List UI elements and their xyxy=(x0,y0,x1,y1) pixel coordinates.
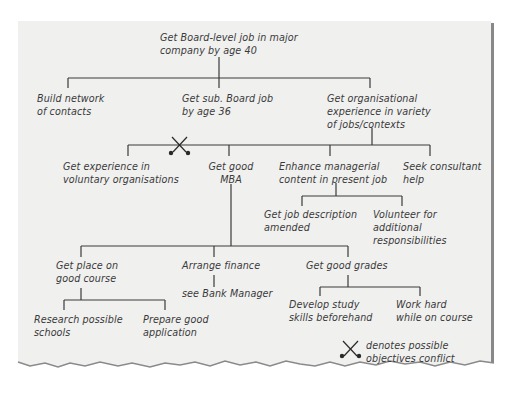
crossed-swords-icon xyxy=(169,137,189,155)
legend-text: denotes possible objectives conflict xyxy=(366,339,455,365)
node-seek-consultant: Seek consultant help xyxy=(403,160,481,186)
node-job-description: Get job description amended xyxy=(264,208,357,234)
node-text: of jobs/contexts xyxy=(327,118,431,131)
node-arrange-finance: Arrange finance xyxy=(182,259,260,272)
node-sub-board-job: Get sub. Board job by age 36 xyxy=(182,92,273,118)
node-text: Work hard xyxy=(396,298,473,311)
node-text: Get good grades xyxy=(306,259,388,272)
node-text: Get sub. Board job xyxy=(182,92,273,105)
node-place-on-course: Get place on good course xyxy=(56,259,118,285)
node-build-network: Build network of contacts xyxy=(37,92,104,118)
node-text: Develop study xyxy=(289,298,373,311)
node-text: Enhance managerial xyxy=(279,160,387,173)
node-text: Prepare good xyxy=(143,313,209,326)
node-bank-manager: see Bank Manager xyxy=(182,287,273,300)
node-text: Get organisational xyxy=(327,92,431,105)
node-text: help xyxy=(403,173,481,186)
node-text: Get Board-level job in major xyxy=(160,31,298,44)
node-text: voluntary organisations xyxy=(63,173,179,186)
node-text: Arrange finance xyxy=(182,259,260,272)
node-good-grades: Get good grades xyxy=(306,259,388,272)
legend-line: objectives conflict xyxy=(366,352,455,365)
node-text: Seek consultant xyxy=(403,160,481,173)
node-text: see Bank Manager xyxy=(182,287,273,300)
node-root: Get Board-level job in major company by … xyxy=(160,31,298,57)
node-text: company by age 40 xyxy=(160,44,298,57)
node-voluntary-experience: Get experience in voluntary organisation… xyxy=(63,160,179,186)
legend-line: denotes possible xyxy=(366,339,455,352)
node-text: Build network xyxy=(37,92,104,105)
node-work-hard: Work hard while on course xyxy=(396,298,473,324)
node-enhance-managerial: Enhance managerial content in present jo… xyxy=(279,160,387,186)
node-text: Get job description xyxy=(264,208,357,221)
node-good-mba: Get good MBA xyxy=(204,160,258,186)
crossed-swords-icon xyxy=(340,341,360,358)
node-text: Research possible xyxy=(34,313,123,326)
node-organisational-experience: Get organisational experience in variety… xyxy=(327,92,431,131)
node-text: of contacts xyxy=(37,105,104,118)
node-text: Get place on xyxy=(56,259,118,272)
node-study-skills: Develop study skills beforehand xyxy=(289,298,373,324)
node-text: responsibilities xyxy=(373,234,447,247)
node-text: Volunteer for xyxy=(373,208,447,221)
node-text: content in present job xyxy=(279,173,387,186)
node-text: good course xyxy=(56,272,118,285)
node-prepare-application: Prepare good application xyxy=(143,313,209,339)
node-research-schools: Research possible schools xyxy=(34,313,123,339)
node-text: amended xyxy=(264,221,357,234)
node-volunteer-responsibilities: Volunteer for additional responsibilitie… xyxy=(373,208,447,247)
node-text: while on course xyxy=(396,311,473,324)
node-text: skills beforehand xyxy=(289,311,373,324)
node-text: additional xyxy=(373,221,447,234)
node-text: by age 36 xyxy=(182,105,273,118)
node-text: MBA xyxy=(204,173,258,186)
node-text: experience in variety xyxy=(327,105,431,118)
node-text: Get good xyxy=(204,160,258,173)
node-text: schools xyxy=(34,326,123,339)
node-text: application xyxy=(143,326,209,339)
node-text: Get experience in xyxy=(63,160,179,173)
